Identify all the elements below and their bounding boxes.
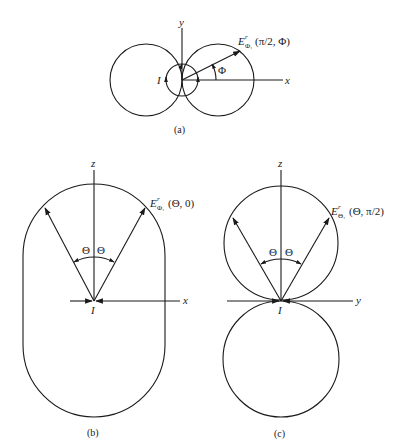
theta-label-right: Θ [285, 246, 293, 258]
figure-c: z y I Θ Θ E r Θ₁ (Θ, π/2) (c) [223, 157, 384, 440]
figure-a: y x I Φ E r Φ₁ (π/2, Φ) (a) [110, 16, 290, 136]
y-axis-label: y [178, 16, 184, 28]
theta-arc-left [261, 259, 281, 264]
theta-arc-right [281, 259, 301, 264]
field-label-sub: Φ₁ [245, 42, 253, 50]
caption-c: (c) [274, 428, 285, 440]
theta-label-left: Θ [82, 244, 90, 256]
current-label: I [90, 304, 96, 316]
z-axis-label: z [90, 157, 96, 169]
current-label: I [277, 304, 283, 316]
field-label-main: E [330, 205, 338, 217]
radiation-pattern-diagram: y x I Φ E r Φ₁ (π/2, Φ) (a) z x I Θ Θ E … [0, 0, 397, 440]
figure-b: z x I Θ Θ E r Φ₁ (Θ, 0) (b) [23, 157, 195, 439]
theta-label-left: Θ [269, 246, 277, 258]
x-axis-label: x [182, 294, 188, 306]
current-label: I [156, 74, 162, 86]
theta-arc-right [94, 257, 114, 262]
field-label-main: E [149, 197, 157, 209]
phi-label: Φ [218, 64, 226, 76]
left-lobe [110, 44, 182, 116]
field-label-sub: Θ₁ [338, 212, 346, 220]
theta-label-right: Θ [97, 244, 105, 256]
field-label-sup: r [245, 33, 248, 41]
field-label-args: (π/2, Φ) [255, 35, 290, 48]
y-axis-label: y [355, 294, 361, 306]
phi-angle-arc [212, 64, 216, 80]
field-label-args: (Θ, π/2) [349, 205, 384, 218]
caption-b: (b) [87, 427, 99, 439]
caption-a: (a) [174, 124, 185, 136]
field-label-args: (Θ, 0) [168, 197, 195, 210]
field-label-sup: r [338, 203, 341, 211]
field-label-main: E [237, 35, 245, 47]
theta-arc-left [74, 257, 94, 262]
field-label-sup: r [157, 195, 160, 203]
lower-lobe [223, 301, 339, 417]
x-axis-label: x [284, 74, 290, 86]
field-vector [182, 51, 240, 80]
field-label-sub: Φ₁ [157, 204, 165, 212]
z-axis-label: z [277, 157, 283, 169]
